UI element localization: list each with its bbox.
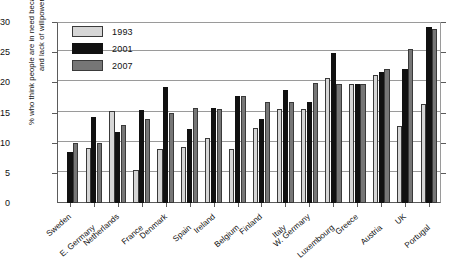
x-tick-mark	[238, 203, 239, 207]
legend-item: 1993	[72, 24, 180, 39]
legend-label: 2001	[112, 44, 133, 54]
x-tick-mark	[333, 203, 334, 207]
y-tick-mark-right	[441, 22, 446, 23]
x-tick-mark	[381, 203, 382, 207]
bar	[355, 84, 360, 203]
x-tick-mark	[190, 203, 191, 207]
bar	[229, 149, 234, 203]
bar	[307, 102, 312, 203]
x-tick-mark	[405, 203, 406, 207]
bar	[181, 147, 186, 203]
bar	[331, 53, 336, 203]
legend-swatch-icon	[72, 43, 103, 54]
bar	[241, 96, 246, 203]
bar	[157, 149, 162, 203]
y-tick-label: 15	[0, 108, 10, 118]
bar	[109, 111, 114, 203]
bar-group	[181, 22, 198, 203]
y-tick-label: 25	[0, 47, 10, 57]
bar	[397, 126, 402, 203]
legend-item: 2001	[72, 41, 180, 56]
legend-item: 2007	[72, 58, 180, 73]
bar	[373, 75, 378, 203]
bar	[97, 143, 102, 203]
x-tick-mark	[118, 203, 119, 207]
bar	[121, 125, 126, 203]
x-tick-mark	[285, 203, 286, 207]
bar	[313, 83, 318, 203]
y-tick-mark-right	[441, 82, 446, 83]
bar	[163, 87, 168, 203]
bar-group	[325, 22, 342, 203]
bar	[325, 78, 330, 203]
y-axis-title: % who think people are in need because o…	[20, 0, 54, 130]
legend-label: 2007	[112, 61, 133, 71]
legend-swatch-icon	[72, 26, 103, 37]
bar-group	[349, 22, 366, 203]
bar	[217, 109, 222, 203]
bar	[402, 69, 407, 203]
bar	[289, 102, 294, 203]
legend: 199320012007	[72, 24, 180, 75]
bar	[384, 69, 389, 203]
bar	[86, 148, 91, 204]
y-tick-label: 30	[0, 17, 10, 27]
y-tick-mark-right	[441, 52, 446, 53]
bar	[253, 128, 258, 203]
bar-chart: % who think people are in need because o…	[0, 0, 455, 271]
x-tick-mark	[94, 203, 95, 207]
bar	[259, 119, 264, 203]
y-tick-label: 10	[0, 138, 10, 148]
bar	[133, 170, 138, 203]
y-tick-mark-right	[441, 113, 446, 114]
y-tick-label: 20	[0, 77, 10, 87]
bar	[169, 113, 174, 204]
bar	[187, 129, 192, 203]
y-axis-title-text: % who think people are in need because o…	[27, 0, 48, 130]
legend-label: 1993	[112, 27, 133, 37]
bar	[73, 143, 78, 203]
legend-swatch-icon	[72, 60, 103, 71]
bar-group	[373, 22, 390, 203]
bar	[67, 152, 72, 203]
bar-group	[253, 22, 270, 203]
bar-group	[229, 22, 246, 203]
x-tick-mark	[214, 203, 215, 207]
bar	[283, 90, 288, 203]
y-tick-label: 0	[0, 198, 10, 208]
x-tick-mark	[309, 203, 310, 207]
bar	[379, 72, 384, 203]
x-tick-mark	[166, 203, 167, 207]
bar	[211, 108, 216, 203]
bar-group	[421, 22, 438, 203]
bar-group	[301, 22, 318, 203]
bar	[115, 132, 120, 203]
x-tick-mark	[429, 203, 430, 207]
bar	[408, 49, 413, 203]
bar	[426, 27, 431, 203]
bar	[349, 84, 354, 203]
bar	[421, 104, 426, 203]
bar	[265, 102, 270, 203]
bar	[193, 108, 198, 203]
bar-group	[277, 22, 294, 203]
bar	[432, 29, 437, 203]
bar	[139, 110, 144, 203]
bar	[205, 138, 210, 203]
bar	[145, 119, 150, 203]
bar	[235, 96, 240, 203]
bar	[360, 84, 365, 203]
y-tick-mark-right	[441, 173, 446, 174]
x-tick-mark	[70, 203, 71, 207]
bar	[277, 109, 282, 203]
bar	[336, 84, 341, 203]
bar	[301, 109, 306, 203]
y-tick-label: 5	[0, 168, 10, 178]
bar-group	[205, 22, 222, 203]
x-tick-mark	[261, 203, 262, 207]
bar-group	[397, 22, 414, 203]
bar	[91, 117, 96, 203]
x-tick-mark	[357, 203, 358, 207]
x-tick-mark	[142, 203, 143, 207]
y-tick-mark-right	[441, 143, 446, 144]
